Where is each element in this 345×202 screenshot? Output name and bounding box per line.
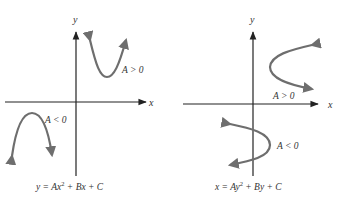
- left-x-axis-label: x: [148, 97, 154, 108]
- left-panel: y x A > 0 A < 0 y = Ax2 + Bx + C: [5, 14, 154, 192]
- right-caption-rhs: + By + C: [243, 182, 282, 192]
- left-lower-curve-label: A < 0: [44, 115, 67, 125]
- left-y-axis-label: y: [72, 14, 78, 25]
- left-upper-curve-label: A > 0: [121, 65, 144, 75]
- right-upper-curve-label: A > 0: [272, 91, 295, 101]
- left-upper-parabola: [90, 40, 126, 77]
- right-panel: y x A > 0 A < 0 x = Ay2 + By + C: [183, 14, 333, 192]
- right-upper-parabola: [270, 45, 312, 89]
- parabola-diagram: y x A > 0 A < 0 y = Ax2 + Bx + C y x A >…: [0, 0, 345, 202]
- left-equation-caption: y = Ax2 + Bx + C: [35, 180, 104, 192]
- right-x-axis-label: x: [327, 99, 333, 110]
- right-y-axis-label: y: [249, 14, 255, 25]
- right-lower-parabola: [230, 124, 270, 165]
- right-equation-caption: x = Ay2 + By + C: [214, 180, 282, 192]
- left-caption-rhs: + Bx + C: [64, 182, 103, 192]
- left-caption-lhs: y = Ax: [35, 182, 62, 192]
- right-caption-lhs: x = Ay: [214, 182, 240, 192]
- right-lower-curve-label: A < 0: [276, 141, 299, 151]
